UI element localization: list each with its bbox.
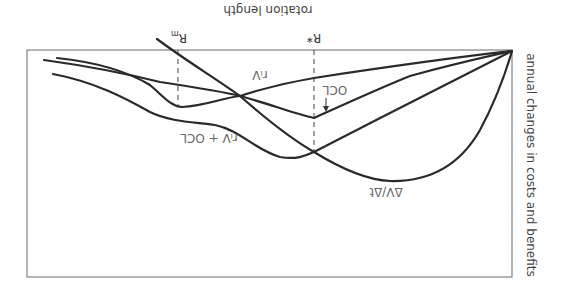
label-riv: rᵢV (252, 68, 268, 82)
x-axis-label: rotation length (223, 3, 312, 17)
curve-dv-dt (157, 39, 512, 181)
label-ocl: OCL (322, 83, 347, 97)
r-star-label: R* (307, 31, 321, 45)
y-axis-label: annual changes in costs and benefits (524, 53, 538, 277)
plot-frame (27, 50, 512, 277)
label-dv-dt: ΔV/Δt (369, 185, 403, 199)
label-riv-ocl: rᵢV + OCL (180, 131, 238, 145)
rotation-diagram: rotation length Rm R* rᵢV OCL rᵢV + OCL … (0, 0, 572, 290)
r-m-label: Rm (171, 29, 187, 45)
